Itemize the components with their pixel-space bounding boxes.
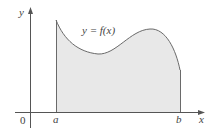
y-axis-label: y — [19, 7, 24, 18]
lower-bound-label: a — [53, 114, 59, 125]
origin-label: 0 — [20, 115, 26, 126]
shaded-area — [56, 20, 180, 112]
area-under-curve-diagram: y y = f(x) 0 a b x — [0, 0, 218, 133]
y-axis-arrow-icon — [28, 7, 33, 14]
x-axis-label: x — [199, 114, 204, 125]
curve-label: y = f(x) — [82, 25, 115, 36]
upper-bound-label: b — [176, 114, 182, 125]
diagram-canvas — [0, 0, 218, 133]
